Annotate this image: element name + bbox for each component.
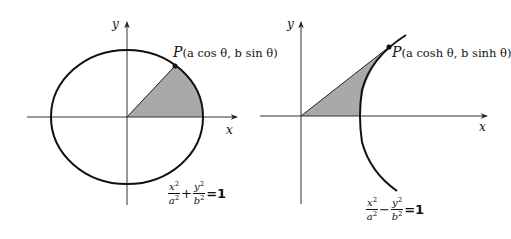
ellipse-y-axis-label: y: [112, 18, 119, 30]
point-name: P: [173, 44, 182, 60]
point-name: P: [392, 44, 401, 60]
ellipse-shaded-sector: [127, 66, 203, 118]
fraction-x-over-a: x2 a2: [366, 197, 378, 223]
operator: +: [181, 187, 192, 200]
ellipse-point-label: P(a cos θ, b sin θ): [173, 45, 278, 60]
point-coords: (a cos θ, b sin θ): [182, 46, 277, 60]
exponent: 2: [373, 196, 377, 204]
exponent: 2: [175, 194, 179, 202]
exponent: 2: [200, 180, 204, 188]
exponent: 2: [200, 194, 204, 202]
ellipse-x-axis-label: x: [226, 124, 233, 136]
hyperbola-x-axis-label: x: [479, 121, 486, 133]
hyperbola-equation: x2 a2 − y2 b2 =1: [366, 197, 424, 223]
hyperbola-point-label: P(a cosh θ, b sinh θ): [392, 45, 511, 60]
equation-rhs: =1: [404, 203, 424, 216]
exponent: 2: [398, 196, 402, 204]
exponent: 2: [175, 180, 179, 188]
fraction-y-over-b: y2 b2: [391, 197, 403, 223]
operator: −: [379, 203, 390, 216]
exponent: 2: [398, 210, 402, 218]
point-coords: (a cosh θ, b sinh θ): [401, 46, 511, 60]
exponent: 2: [373, 210, 377, 218]
ellipse-point-P: [173, 64, 178, 69]
ellipse-equation: x2 a2 + y2 b2 =1: [168, 181, 226, 207]
fraction-y-over-b: y2 b2: [193, 181, 205, 207]
fraction-x-over-a: x2 a2: [168, 181, 180, 207]
equation-rhs: =1: [206, 187, 226, 200]
hyperbola-point-P: [387, 45, 392, 50]
hyperbola-y-axis-label: y: [287, 18, 294, 30]
